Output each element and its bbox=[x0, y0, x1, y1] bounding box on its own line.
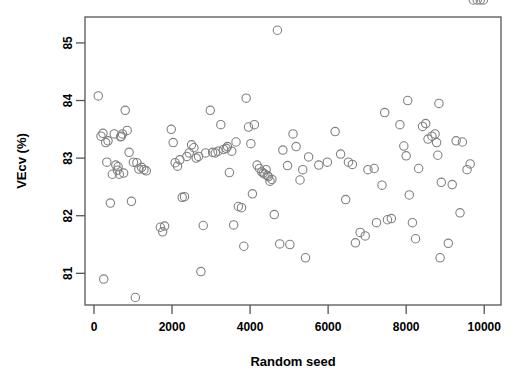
data-point bbox=[167, 125, 175, 133]
data-point bbox=[378, 181, 386, 189]
data-point bbox=[286, 240, 294, 248]
data-point bbox=[197, 267, 205, 275]
y-tick-label: 82 bbox=[61, 209, 75, 223]
data-point bbox=[315, 161, 323, 169]
data-point bbox=[247, 140, 255, 148]
y-tick-label: 81 bbox=[61, 266, 75, 280]
data-point bbox=[276, 240, 284, 248]
data-point bbox=[414, 164, 422, 172]
data-point bbox=[296, 176, 304, 184]
x-axis-title: Random seed bbox=[250, 354, 335, 369]
data-point bbox=[408, 218, 416, 226]
data-point bbox=[237, 203, 245, 211]
data-point bbox=[94, 92, 102, 100]
data-point bbox=[103, 158, 111, 166]
data-point bbox=[99, 129, 107, 137]
data-point bbox=[351, 239, 359, 247]
data-point bbox=[292, 142, 300, 150]
data-point bbox=[405, 191, 413, 199]
data-point bbox=[206, 106, 214, 114]
y-tick-label: 84 bbox=[61, 94, 75, 108]
data-point bbox=[411, 235, 419, 243]
data-point bbox=[125, 148, 133, 156]
data-point bbox=[169, 138, 177, 146]
data-point bbox=[283, 161, 291, 169]
data-point bbox=[100, 275, 108, 283]
data-point bbox=[217, 121, 225, 129]
data-point bbox=[331, 127, 339, 135]
data-point bbox=[370, 164, 378, 172]
data-point bbox=[381, 108, 389, 116]
data-point bbox=[232, 138, 240, 146]
data-point bbox=[273, 26, 281, 34]
data-point bbox=[270, 210, 278, 218]
data-point bbox=[341, 195, 349, 203]
x-tick-label: 8000 bbox=[393, 320, 420, 334]
scatter-plot-figure: 0200040006000800010000 8182838485 Random… bbox=[0, 0, 516, 383]
data-point bbox=[199, 221, 207, 229]
data-point bbox=[444, 239, 452, 247]
x-tick-label: 0 bbox=[91, 320, 98, 334]
x-axis-tick-labels: 0200040006000800010000 bbox=[91, 320, 502, 334]
data-point bbox=[240, 242, 248, 250]
data-point bbox=[404, 96, 412, 104]
data-point bbox=[432, 138, 440, 146]
x-axis-ticks bbox=[94, 305, 484, 314]
data-point bbox=[279, 146, 287, 154]
data-point bbox=[229, 221, 237, 229]
data-point bbox=[436, 254, 444, 262]
data-point bbox=[242, 94, 250, 102]
data-point bbox=[301, 254, 309, 262]
data-point bbox=[289, 130, 297, 138]
data-point bbox=[434, 151, 442, 159]
data-point bbox=[323, 158, 331, 166]
data-point bbox=[336, 150, 344, 158]
y-axis-ticks bbox=[76, 43, 85, 273]
data-point bbox=[437, 178, 445, 186]
y-tick-label: 85 bbox=[61, 36, 75, 50]
data-point bbox=[435, 99, 443, 107]
data-point bbox=[214, 147, 222, 155]
data-point bbox=[304, 153, 312, 161]
y-axis-title: VEcv (%) bbox=[14, 133, 29, 189]
x-tick-label: 4000 bbox=[237, 320, 264, 334]
data-point bbox=[448, 180, 456, 188]
data-point bbox=[106, 199, 114, 207]
plot-canvas: 0200040006000800010000 8182838485 Random… bbox=[0, 0, 516, 383]
data-point bbox=[299, 165, 307, 173]
data-point bbox=[372, 218, 380, 226]
data-point bbox=[458, 138, 466, 146]
data-point bbox=[456, 209, 464, 217]
data-point bbox=[104, 137, 112, 145]
data-point bbox=[225, 168, 233, 176]
data-point bbox=[131, 293, 139, 301]
y-tick-label: 83 bbox=[61, 151, 75, 165]
data-point bbox=[402, 152, 410, 160]
data-point bbox=[127, 197, 135, 205]
y-axis-tick-labels: 8182838485 bbox=[61, 36, 75, 280]
x-tick-label: 10000 bbox=[468, 320, 502, 334]
data-point bbox=[400, 142, 408, 150]
x-tick-label: 6000 bbox=[315, 320, 342, 334]
data-points-layer bbox=[94, 0, 488, 302]
data-point bbox=[248, 190, 256, 198]
data-point bbox=[121, 106, 129, 114]
data-point bbox=[396, 121, 404, 129]
x-tick-label: 2000 bbox=[159, 320, 186, 334]
